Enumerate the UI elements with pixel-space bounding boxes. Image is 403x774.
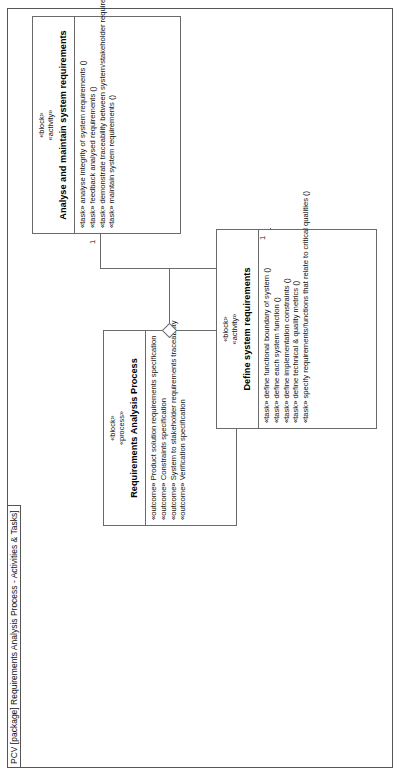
task-item: «task» define technical & quality metric… <box>291 235 301 423</box>
stereotype-process: «process» <box>117 337 126 519</box>
task-item: «task» define each system function () <box>272 235 282 423</box>
task-item: «task» define implementation constraints… <box>282 235 292 423</box>
outcome-item: «outcome» Verification specification <box>178 336 188 520</box>
multiplicity-analyse: 1 <box>88 240 97 244</box>
block-name: Analyse and maintain system requirements <box>57 23 69 227</box>
outcome-item: «outcome» Product solution requirements … <box>149 336 159 520</box>
outcome-item: «outcome» Constraints specification <box>159 336 169 520</box>
task-item: «task» define functional boundary of sys… <box>262 235 272 423</box>
block-analyse-and-maintain-system-requirements[interactable]: «block» «activity» Analyse and maintain … <box>32 16 181 234</box>
outcome-item: «outcome» System to stakeholder requirem… <box>169 336 179 520</box>
block-header: «block» «activity» Analyse and maintain … <box>33 17 74 233</box>
tasks-compartment: «task» analyse integrity of system requi… <box>75 17 120 233</box>
task-item: «task» maintain system requirements () <box>107 22 117 228</box>
tasks-compartment: «task» define functional boundary of sys… <box>259 230 314 428</box>
task-item: «task» demonstrate traceability between … <box>98 22 108 228</box>
block-header: «block» «process» Requirements Analysis … <box>104 331 145 525</box>
stereotype-block: «block» <box>221 236 230 422</box>
stereotype-block: «block» <box>108 337 117 519</box>
association-trunk <box>169 269 170 325</box>
diagram-canvas: PCV [package] Requirements Analysis Proc… <box>0 0 403 774</box>
package-title-tab: PCV [package] Requirements Analysis Proc… <box>7 505 21 768</box>
association-to-analyse <box>100 233 101 269</box>
task-item: «task» analyse integrity of system requi… <box>78 22 88 228</box>
block-header: «block» «activity» Define system require… <box>217 230 258 428</box>
stereotype-activity: «activity» <box>230 236 239 422</box>
outcomes-compartment: «outcome» Product solution requirements … <box>146 331 191 525</box>
block-name: Requirements Analysis Process <box>128 337 140 519</box>
task-item: «task» feedback analysed requirements () <box>88 22 98 228</box>
multiplicity-define: 1 <box>258 236 267 240</box>
stereotype-activity: «activity» <box>46 23 55 227</box>
task-item: «task» specify requirements/functions th… <box>301 235 311 423</box>
block-define-system-requirements[interactable]: «block» «activity» Define system require… <box>216 229 377 429</box>
stereotype-block: «block» <box>37 23 46 227</box>
block-name: Define system requirements <box>241 236 253 422</box>
